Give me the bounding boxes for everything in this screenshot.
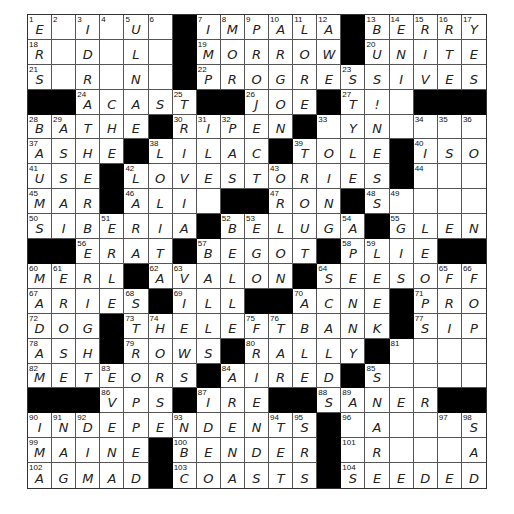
grid-cell[interactable]: H xyxy=(76,139,100,164)
grid-cell[interactable]: I xyxy=(173,189,197,214)
grid-cell[interactable]: A xyxy=(52,189,76,214)
grid-cell[interactable]: D xyxy=(245,438,269,463)
grid-cell[interactable]: P xyxy=(462,314,486,339)
grid-cell[interactable]: S xyxy=(293,463,317,488)
grid-cell[interactable]: 17Y xyxy=(462,15,486,40)
grid-cell[interactable] xyxy=(462,164,486,189)
grid-cell[interactable]: 6 xyxy=(149,15,173,40)
grid-cell[interactable]: 49 xyxy=(390,189,414,214)
grid-cell[interactable] xyxy=(149,65,173,90)
grid-cell[interactable]: E xyxy=(52,364,76,389)
grid-cell[interactable]: A xyxy=(462,438,486,463)
grid-cell[interactable]: E xyxy=(197,438,221,463)
grid-cell[interactable] xyxy=(438,164,462,189)
grid-cell[interactable]: Y xyxy=(341,115,365,140)
grid-cell[interactable]: A xyxy=(221,463,245,488)
grid-cell[interactable]: 56E xyxy=(76,239,100,264)
grid-cell[interactable]: R xyxy=(221,65,245,90)
grid-cell[interactable] xyxy=(414,438,438,463)
grid-cell[interactable]: 66F xyxy=(462,264,486,289)
grid-cell[interactable] xyxy=(100,40,124,65)
grid-cell[interactable]: R xyxy=(438,289,462,314)
grid-cell[interactable]: 26J xyxy=(245,90,269,115)
grid-cell[interactable]: N xyxy=(124,65,148,90)
grid-cell[interactable]: 31I xyxy=(197,115,221,140)
grid-cell[interactable]: T xyxy=(76,115,100,140)
grid-cell[interactable]: 43O xyxy=(269,164,293,189)
grid-cell[interactable]: A xyxy=(173,214,197,239)
grid-cell[interactable]: 46A xyxy=(124,189,148,214)
grid-cell[interactable] xyxy=(414,339,438,364)
grid-cell[interactable]: S xyxy=(245,463,269,488)
grid-cell[interactable]: E xyxy=(462,40,486,65)
grid-cell[interactable]: S xyxy=(149,90,173,115)
grid-cell[interactable]: D xyxy=(76,40,100,65)
grid-cell[interactable]: 84A xyxy=(221,364,245,389)
grid-cell[interactable]: O xyxy=(197,463,221,488)
grid-cell[interactable]: 80R xyxy=(245,339,269,364)
grid-cell[interactable]: 62A xyxy=(149,264,173,289)
grid-cell[interactable]: N xyxy=(317,189,341,214)
grid-cell[interactable]: E xyxy=(293,90,317,115)
grid-cell[interactable]: O xyxy=(414,264,438,289)
grid-cell[interactable]: N xyxy=(341,289,365,314)
grid-cell[interactable]: 32P xyxy=(221,115,245,140)
grid-cell[interactable]: N xyxy=(390,40,414,65)
grid-cell[interactable]: O xyxy=(462,289,486,314)
grid-cell[interactable]: R xyxy=(293,65,317,90)
grid-cell[interactable]: 9P xyxy=(245,15,269,40)
grid-cell[interactable]: O xyxy=(245,264,269,289)
grid-cell[interactable]: I xyxy=(245,364,269,389)
grid-cell[interactable]: N xyxy=(341,314,365,339)
grid-cell[interactable]: 89A xyxy=(341,388,365,413)
grid-cell[interactable]: S xyxy=(52,339,76,364)
grid-cell[interactable] xyxy=(390,438,414,463)
grid-cell[interactable]: E xyxy=(365,289,389,314)
grid-cell[interactable]: 76T xyxy=(269,314,293,339)
grid-cell[interactable]: L xyxy=(414,214,438,239)
grid-cell[interactable]: E xyxy=(293,364,317,389)
grid-cell[interactable]: 91N xyxy=(52,413,76,438)
grid-cell[interactable]: L xyxy=(221,289,245,314)
grid-cell[interactable]: 104S xyxy=(341,463,365,488)
grid-cell[interactable]: 63V xyxy=(173,264,197,289)
grid-cell[interactable]: I xyxy=(390,65,414,90)
grid-cell[interactable]: N xyxy=(221,438,245,463)
grid-cell[interactable]: E xyxy=(341,164,365,189)
grid-cell[interactable]: 33 xyxy=(317,115,341,140)
grid-cell[interactable]: 48S xyxy=(365,189,389,214)
grid-cell[interactable]: 19M xyxy=(197,40,221,65)
grid-cell[interactable]: I xyxy=(76,289,100,314)
grid-cell[interactable]: C xyxy=(317,289,341,314)
grid-cell[interactable]: 103C xyxy=(173,463,197,488)
grid-cell[interactable]: 77S xyxy=(414,314,438,339)
grid-cell[interactable]: R xyxy=(365,438,389,463)
grid-cell[interactable]: 53E xyxy=(245,214,269,239)
grid-cell[interactable]: R xyxy=(245,40,269,65)
grid-cell[interactable]: 4 xyxy=(100,15,124,40)
grid-cell[interactable]: 88S xyxy=(317,388,341,413)
grid-cell[interactable]: A xyxy=(269,339,293,364)
grid-cell[interactable]: L xyxy=(221,264,245,289)
grid-cell[interactable]: 50S xyxy=(28,214,52,239)
grid-cell[interactable]: N xyxy=(269,115,293,140)
grid-cell[interactable]: L xyxy=(149,189,173,214)
grid-cell[interactable]: N xyxy=(269,264,293,289)
grid-cell[interactable]: 60M xyxy=(28,264,52,289)
grid-cell[interactable]: 58P xyxy=(341,239,365,264)
grid-cell[interactable]: D xyxy=(317,364,341,389)
grid-cell[interactable]: 1E xyxy=(28,15,52,40)
grid-cell[interactable]: E xyxy=(390,463,414,488)
grid-cell[interactable]: P xyxy=(124,388,148,413)
grid-cell[interactable] xyxy=(390,364,414,389)
grid-cell[interactable]: O xyxy=(245,65,269,90)
grid-cell[interactable]: 10A xyxy=(269,15,293,40)
grid-cell[interactable]: E xyxy=(365,139,389,164)
grid-cell[interactable]: 39T xyxy=(293,139,317,164)
grid-cell[interactable]: 97 xyxy=(438,413,462,438)
grid-cell[interactable]: G xyxy=(317,214,341,239)
grid-cell[interactable]: E xyxy=(124,438,148,463)
grid-cell[interactable]: S xyxy=(52,164,76,189)
grid-cell[interactable]: E xyxy=(365,463,389,488)
grid-cell[interactable]: M xyxy=(76,463,100,488)
